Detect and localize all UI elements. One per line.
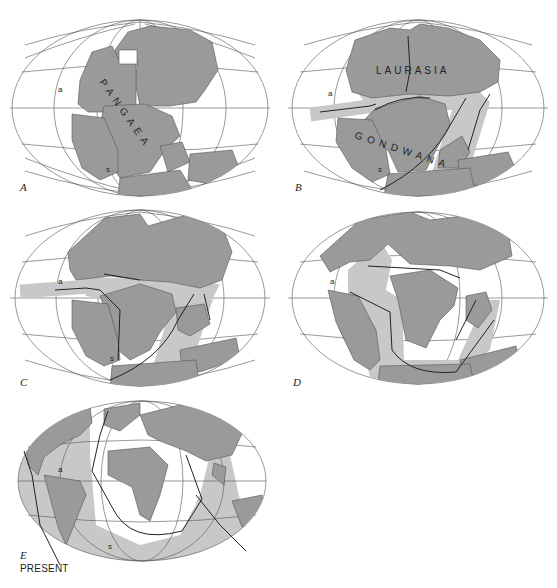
point-label-s: s: [108, 542, 112, 551]
point-label-s: s: [106, 165, 110, 174]
point-label-a: a: [58, 277, 63, 286]
map-panel-e: a s: [0, 395, 290, 585]
map-panel-b: LAURASIA GONDWANA a s: [280, 0, 557, 200]
point-label-a: a: [58, 85, 63, 94]
point-label-a: a: [330, 277, 335, 286]
present-caption: PRESENT: [20, 563, 69, 574]
continents: [72, 26, 240, 196]
continents: [320, 212, 520, 395]
map-panel-c: a s: [0, 200, 280, 395]
laurasia-label: LAURASIA: [376, 65, 449, 76]
panel-label-e: E: [20, 549, 27, 561]
panel-label-a: A: [20, 181, 27, 193]
panel-label-c: C: [20, 376, 27, 388]
point-label-s: s: [378, 165, 382, 174]
point-label-a: a: [58, 465, 63, 474]
panel-label-b: B: [295, 181, 302, 193]
point-label-a: a: [328, 89, 333, 98]
map-panel-d: a: [280, 200, 557, 395]
continents: [20, 214, 240, 390]
map-panel-a: PANGAEA a s: [0, 0, 280, 200]
point-label-s: s: [110, 354, 114, 363]
panel-label-d: D: [293, 376, 301, 388]
